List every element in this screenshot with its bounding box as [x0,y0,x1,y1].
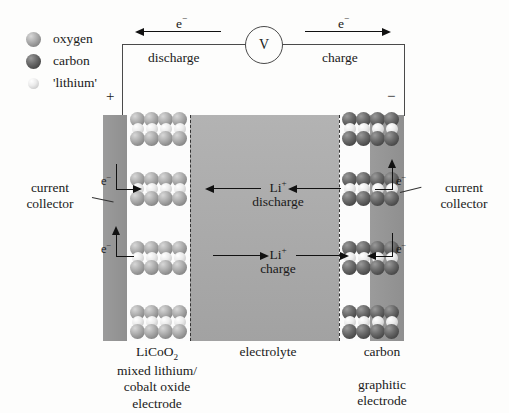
carbon-row [339,324,402,339]
carbon-row [339,131,402,146]
carbon-sphere-icon [342,324,357,339]
carbon-sphere-icon [342,191,357,206]
carbon-sphere-icon [384,191,399,206]
oxygen-sphere-icon [144,260,159,275]
electrolyte-label: electrolyte [216,344,320,360]
circuit-wire-top-left [122,44,246,45]
charge-mode-label: charge [322,50,358,66]
carbon-sphere-icon [384,324,399,339]
carbon-sphere-icon [370,324,385,339]
oxygen-sphere-icon [26,32,41,47]
carbon-sphere-icon [370,131,385,146]
carbon-sphere-icon [342,260,357,275]
li-discharge-mode-label: discharge [245,194,311,210]
carbon-sphere-icon [384,260,399,275]
voltmeter: V [245,26,283,64]
carbon-sphere-icon [370,191,385,206]
carbon-sphere-icon [356,260,371,275]
right-layer-cluster [339,305,402,339]
left-electron-label-charge: e− [101,240,111,257]
left-electrode-formula: LiCoO2 [136,344,178,359]
circuit-wire-left-down [122,44,123,116]
oxygen-sphere-icon [144,324,159,339]
oxygen-row [127,260,190,275]
positive-terminal-sign: + [106,88,114,105]
legend-label-oxygen: oxygen [53,31,93,47]
right-current-collector-label: current collector [424,180,504,213]
left-electrode-boundary [190,115,191,341]
discharge-electron-label: e− [176,14,187,32]
oxygen-sphere-icon [172,324,187,339]
right-electron-label-discharge: e− [396,172,406,189]
oxygen-sphere-icon [144,131,159,146]
oxygen-sphere-icon [130,131,145,146]
circuit-wire-top-right [281,44,405,45]
oxygen-sphere-icon [158,260,173,275]
right-layer-cluster [339,112,402,146]
carbon-sphere-icon [384,131,399,146]
voltmeter-label: V [259,37,269,53]
oxygen-row [127,324,190,339]
carbon-sphere-icon [356,131,371,146]
left-layer-cluster [127,305,190,339]
electrolyte-body [190,115,339,341]
battery-diagram: oxygen carbon 'lithium' V e− e− discharg… [0,0,509,413]
legend-item-carbon: carbon [26,50,97,72]
carbon-sphere-icon [356,191,371,206]
carbon-sphere-icon [26,54,41,69]
left-layer-cluster [127,112,190,146]
oxygen-sphere-icon [130,324,145,339]
lithium-sphere-icon [28,78,39,89]
left-electron-label-discharge: e− [101,172,111,189]
oxygen-sphere-icon [158,131,173,146]
legend: oxygen carbon 'lithium' [26,28,97,94]
carbon-sphere-icon [370,260,385,275]
battery-cell [103,115,404,341]
carbon-row [339,260,402,275]
oxygen-sphere-icon [172,191,187,206]
oxygen-sphere-icon [158,324,173,339]
oxygen-sphere-icon [172,131,187,146]
oxygen-row [127,131,190,146]
oxygen-row [127,191,190,206]
oxygen-sphere-icon [172,260,187,275]
legend-label-carbon: carbon [53,53,90,69]
circuit-wire-right-down [404,44,405,116]
oxygen-sphere-icon [130,260,145,275]
left-layer-cluster [127,241,190,275]
oxygen-sphere-icon [158,191,173,206]
carbon-row [339,191,402,206]
right-electrode-label: carbon graphitic electrode [330,344,434,410]
left-current-collector-label: current collector [10,180,90,213]
negative-terminal-sign: − [387,88,395,105]
left-electrode-label: LiCoO2 mixed lithium/ cobalt oxide elect… [96,344,218,412]
oxygen-sphere-icon [144,191,159,206]
discharge-mode-label: discharge [148,50,199,66]
legend-item-oxygen: oxygen [26,28,97,50]
carbon-sphere-icon [342,131,357,146]
legend-label-lithium: 'lithium' [53,75,97,91]
carbon-sphere-icon [356,324,371,339]
right-electron-label-charge: e− [396,240,406,257]
charge-electron-label: e− [338,14,349,32]
li-charge-mode-label: charge [252,261,304,277]
legend-item-lithium: 'lithium' [26,72,97,94]
oxygen-sphere-icon [130,191,145,206]
